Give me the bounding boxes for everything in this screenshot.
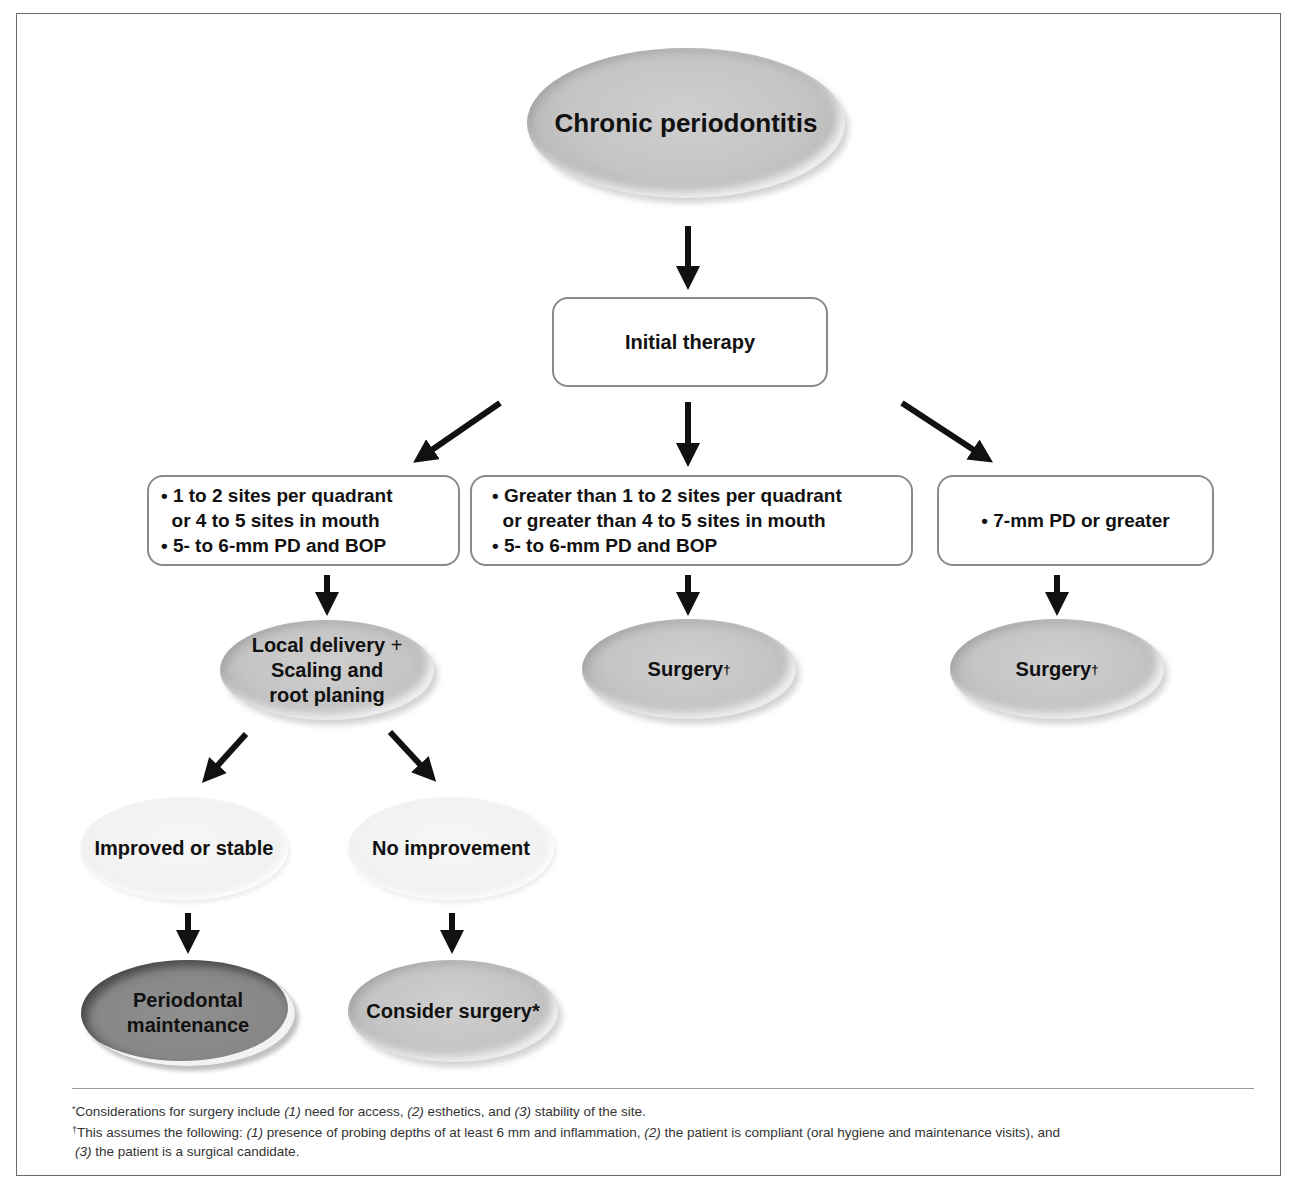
node-criteria-right: • 7-mm PD or greater: [937, 475, 1214, 566]
node-label-line3: root planing: [269, 683, 385, 708]
node-label-line1: Periodontal: [133, 988, 243, 1013]
footnote-text: need for access,: [301, 1104, 408, 1119]
footnote-text: the patient is a surgical candidate.: [92, 1144, 300, 1159]
footnote-text: the patient is compliant (oral hygiene a…: [661, 1125, 1060, 1140]
footnote-text: Considerations for surgery include: [76, 1104, 285, 1119]
criteria-line: • 7-mm PD or greater: [981, 510, 1169, 532]
node-consider-surgery: Consider surgery*: [348, 960, 558, 1062]
node-periodontal-maintenance: Periodontal maintenance: [81, 960, 295, 1066]
node-criteria-middle: • Greater than 1 to 2 sites per quadrant…: [470, 475, 913, 566]
footnote-num: (3): [75, 1144, 92, 1159]
footnote-num: (1): [284, 1104, 301, 1119]
criteria-line: or 4 to 5 sites in mouth: [161, 508, 380, 533]
footnote-num: (3): [515, 1104, 532, 1119]
node-label: Chronic periodontitis: [555, 108, 818, 139]
footnote-num: (2): [644, 1125, 661, 1140]
node-label-line1: Local delivery: [252, 634, 385, 656]
footnote-text: esthetics, and: [424, 1104, 515, 1119]
criteria-line: • 1 to 2 sites per quadrant: [161, 483, 393, 508]
criteria-line: • 5- to 6-mm PD and BOP: [492, 533, 717, 558]
node-label: Surgery: [648, 657, 724, 682]
node-label: Surgery: [1016, 657, 1092, 682]
dagger-marker: †: [723, 657, 730, 682]
node-surgery-middle: Surgery†: [582, 619, 796, 719]
node-label-line2: maintenance: [127, 1013, 249, 1038]
node-initial-therapy: Initial therapy: [552, 297, 828, 387]
criteria-line: or greater than 4 to 5 sites in mouth: [492, 508, 826, 533]
node-criteria-left: • 1 to 2 sites per quadrant or 4 to 5 si…: [147, 475, 460, 566]
node-label: Consider surgery*: [366, 999, 539, 1024]
criteria-line: • Greater than 1 to 2 sites per quadrant: [492, 483, 842, 508]
dagger-marker: †: [1091, 657, 1098, 682]
footnote-num: (1): [247, 1125, 264, 1140]
node-no-improvement: No improvement: [348, 797, 554, 900]
footnote-text: stability of the site.: [531, 1104, 646, 1119]
node-surgery-right: Surgery†: [950, 619, 1164, 719]
node-local-delivery: Local delivery + Scaling and root planin…: [220, 620, 434, 720]
footnotes: *Considerations for surgery include (1) …: [72, 1100, 1262, 1161]
footnote-text: This assumes the following:: [77, 1125, 247, 1140]
node-chronic-periodontitis: Chronic periodontitis: [527, 48, 845, 198]
footnote-surgery-considerations: *Considerations for surgery include (1) …: [72, 1100, 1262, 1121]
footnote-assumptions-cont: (3) the patient is a surgical candidate.: [72, 1142, 1262, 1161]
node-label: Initial therapy: [625, 330, 755, 355]
node-label: Improved or stable: [95, 836, 274, 861]
node-improved-or-stable: Improved or stable: [80, 797, 288, 900]
node-label-line2: Scaling and: [271, 658, 383, 683]
footnote-text: presence of probing depths of at least 6…: [263, 1125, 644, 1140]
plus-sign: +: [391, 634, 403, 656]
criteria-line: • 5- to 6-mm PD and BOP: [161, 533, 386, 558]
node-label: No improvement: [372, 836, 530, 861]
footnote-num: (2): [407, 1104, 424, 1119]
footnote-assumptions: †This assumes the following: (1) presenc…: [72, 1121, 1262, 1142]
footnote-divider: [72, 1088, 1254, 1089]
